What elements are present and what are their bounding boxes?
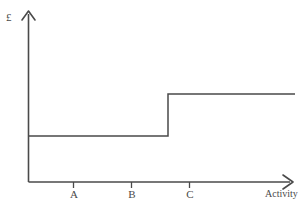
chart-canvas [0, 0, 306, 210]
x-axis-title: Activity [265, 189, 298, 199]
y-axis-title: £ [6, 12, 12, 23]
step-cost-chart: £ Activity A B C [0, 0, 306, 210]
x-tick-label-a: A [64, 189, 84, 200]
x-tick-label-b: B [122, 189, 142, 200]
cost-step-series [29, 94, 296, 136]
y-axis [22, 11, 35, 182]
step-line [29, 94, 296, 136]
x-tick-label-c: C [180, 189, 200, 200]
x-axis [29, 175, 294, 189]
